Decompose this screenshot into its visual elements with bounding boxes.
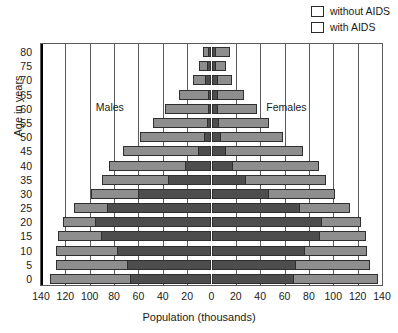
bar-segment-female-with-aids bbox=[212, 132, 222, 142]
bar-segment-female-without-aids bbox=[212, 118, 269, 128]
bar-row bbox=[41, 104, 382, 114]
bar-row bbox=[41, 61, 382, 71]
bar-segment-male-with-aids bbox=[198, 146, 211, 156]
bar-segment-female-with-aids bbox=[212, 203, 301, 213]
bar-segment-male-with-aids bbox=[130, 274, 212, 284]
bar-segment-male-with-aids bbox=[95, 217, 212, 227]
bar-segment-male-with-aids bbox=[204, 132, 211, 142]
bar-row bbox=[41, 246, 382, 256]
bar-segment-male-with-aids bbox=[107, 203, 212, 213]
bar-row bbox=[41, 118, 382, 128]
bar-segment-male-without-aids bbox=[179, 90, 212, 100]
bar-segment-female-without-aids bbox=[212, 104, 257, 114]
y-tick-label: 30 bbox=[6, 189, 32, 199]
bar-row bbox=[41, 203, 382, 213]
bar-segment-female-with-aids bbox=[212, 61, 217, 71]
bar-segment-male-without-aids bbox=[153, 118, 211, 128]
bar-row bbox=[41, 90, 382, 100]
legend-label-with-aids: with AIDS bbox=[330, 22, 376, 33]
chart-legend: without AIDS with AIDS bbox=[311, 5, 390, 34]
bar-row bbox=[41, 161, 382, 171]
bar-segment-male-without-aids bbox=[140, 132, 212, 142]
y-tick-label: 35 bbox=[6, 175, 32, 185]
gridline bbox=[382, 44, 383, 285]
y-tick-label: 25 bbox=[6, 203, 32, 213]
bar-segment-female-with-aids bbox=[212, 161, 234, 171]
annotation-males: Males bbox=[96, 101, 124, 113]
bar-row bbox=[41, 75, 382, 85]
legend-swatch-with-aids bbox=[311, 22, 324, 33]
y-tick-label: 40 bbox=[6, 161, 32, 171]
bar-row bbox=[41, 231, 382, 241]
bar-segment-female-with-aids bbox=[212, 260, 296, 270]
y-tick-label: 10 bbox=[6, 246, 32, 256]
x-tick-label: 140 bbox=[367, 290, 397, 302]
legend-item-with-aids: with AIDS bbox=[311, 21, 390, 34]
bar-segment-female-with-aids bbox=[212, 104, 218, 114]
bar-row bbox=[41, 146, 382, 156]
bar-segment-female-with-aids bbox=[212, 47, 217, 57]
bar-row bbox=[41, 132, 382, 142]
legend-label-without-aids: without AIDS bbox=[330, 6, 390, 17]
annotation-females: Females bbox=[266, 101, 306, 113]
x-axis-title: Population (thousands) bbox=[0, 311, 398, 323]
zero-axis-line bbox=[41, 44, 43, 285]
y-tick-label: 0 bbox=[6, 274, 32, 284]
y-axis-title: Age in years bbox=[12, 51, 24, 161]
bar-row bbox=[41, 189, 382, 199]
legend-item-without-aids: without AIDS bbox=[311, 5, 390, 18]
bar-segment-male-with-aids bbox=[117, 246, 212, 256]
bar-row bbox=[41, 47, 382, 57]
bar-segment-female-with-aids bbox=[212, 189, 269, 199]
bar-row bbox=[41, 217, 382, 227]
bar-segment-female-without-aids bbox=[212, 132, 284, 142]
bar-segment-male-with-aids bbox=[127, 260, 211, 270]
bar-segment-female-with-aids bbox=[212, 146, 227, 156]
bar-segment-female-with-aids bbox=[212, 175, 246, 185]
plot-area: Males Females bbox=[40, 43, 383, 286]
y-tick-label: 20 bbox=[6, 217, 32, 227]
population-pyramid-chart: without AIDS with AIDS Males Females 807… bbox=[0, 0, 398, 333]
bar-row bbox=[41, 175, 382, 185]
bar-segment-male-with-aids bbox=[168, 175, 212, 185]
bar-segment-male-with-aids bbox=[185, 161, 212, 171]
bar-row bbox=[41, 260, 382, 270]
bar-segment-female-with-aids bbox=[212, 246, 306, 256]
bar-row bbox=[41, 274, 382, 284]
bar-segment-male-with-aids bbox=[138, 189, 211, 199]
y-tick-label: 15 bbox=[6, 231, 32, 241]
bar-segment-female-with-aids bbox=[212, 217, 323, 227]
bar-segment-female-with-aids bbox=[212, 231, 320, 241]
bar-segment-female-with-aids bbox=[212, 274, 295, 284]
bar-segment-female-with-aids bbox=[212, 118, 219, 128]
bar-segment-male-without-aids bbox=[165, 104, 211, 114]
bar-segment-male-with-aids bbox=[101, 231, 212, 241]
y-tick-label: 5 bbox=[6, 260, 32, 270]
bar-segment-female-with-aids bbox=[212, 75, 218, 85]
legend-swatch-without-aids bbox=[311, 6, 324, 17]
bar-segment-female-with-aids bbox=[212, 90, 218, 100]
